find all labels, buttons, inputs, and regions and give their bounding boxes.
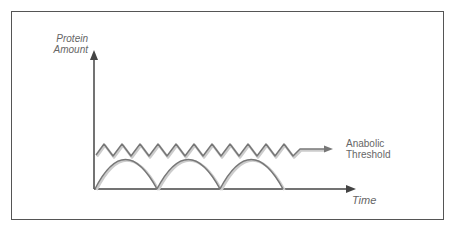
diagram-graphics: [0, 0, 452, 234]
anabolic-threshold-zigzag: [96, 144, 333, 158]
threshold-arrow-icon: [324, 146, 333, 153]
y-axis-arrow-icon: [90, 50, 98, 60]
x-axis-arrow-icon: [346, 185, 356, 193]
y-axis: [90, 50, 98, 189]
protein-level-arcs: [95, 160, 285, 191]
